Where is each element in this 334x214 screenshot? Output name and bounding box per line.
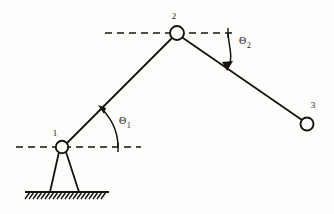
theta-1-arc — [101, 108, 118, 147]
joint-2-label: 2 — [172, 11, 177, 21]
datum-ticks-group — [118, 28, 228, 152]
kinematic-diagram-canvas: 1 2 3 Θ 1 Θ 2 — [0, 0, 334, 214]
theta-2-symbol: Θ — [239, 35, 246, 46]
linkage-diagram: 1 2 3 Θ 1 Θ 2 — [0, 0, 334, 214]
joint-3-endpoint — [301, 118, 314, 131]
theta-1-subscript: 1 — [127, 121, 131, 130]
links-group — [67, 38, 302, 143]
joint-3-label: 3 — [311, 100, 316, 110]
theta-2-subscript: 2 — [247, 41, 251, 50]
angle-arcs-group — [98, 33, 233, 147]
theta-1-symbol: Θ — [119, 115, 126, 126]
joint-1-label: 1 — [53, 128, 58, 138]
joints-group — [56, 26, 314, 153]
joint-2-pivot — [170, 26, 184, 40]
support-leg-right — [66, 152, 79, 192]
support-leg-left — [50, 152, 59, 192]
link-2 — [183, 38, 302, 120]
ground-support — [25, 152, 109, 199]
joint-1-pivot — [56, 141, 68, 153]
link-1 — [67, 38, 172, 143]
ground-hatching-icon — [25, 192, 106, 199]
theta-2-arc — [228, 33, 231, 66]
